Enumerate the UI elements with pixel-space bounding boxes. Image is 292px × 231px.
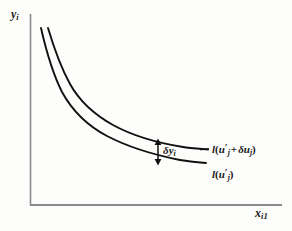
lower-label-leader: [199, 163, 209, 173]
y-axis-label: yi: [11, 8, 19, 22]
upper-label-leader: [200, 149, 209, 150]
x-axis-label-subscript: i1: [261, 211, 268, 221]
upper-label-close-paren: ): [252, 143, 256, 155]
upper-curve-label: l(u′j+δuj): [212, 143, 256, 157]
delta-y-subscript: i: [174, 149, 176, 158]
delta-y-annotation-label: δyi: [163, 145, 176, 158]
lower-label-close-paren: ): [230, 168, 234, 180]
y-axis-label-subscript: i: [16, 12, 18, 22]
indifference-curve-figure: yi xi1 δyi l(u′j+δuj) l(u′j): [0, 0, 292, 231]
upper-label-delta-u: δu: [238, 143, 250, 155]
x-axis-label: xi1: [255, 207, 268, 221]
figure-canvas: [0, 0, 292, 231]
lower-indifference-curve: [41, 28, 206, 163]
upper-indifference-curve: [48, 28, 208, 150]
lower-curve-label: l(u′j): [212, 168, 234, 182]
upper-label-plus: +: [230, 143, 238, 155]
